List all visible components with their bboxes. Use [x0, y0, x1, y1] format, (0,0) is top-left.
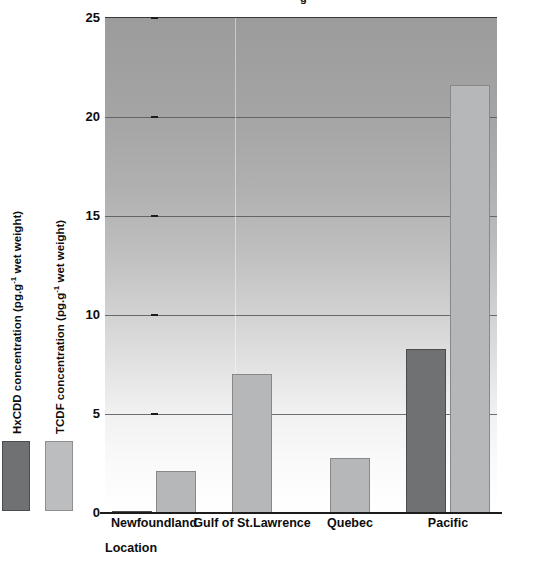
bar-newfoundland-tcdf: [156, 471, 196, 513]
y-tick-mark-25: [151, 17, 158, 19]
y-tick-mark-15: [151, 215, 158, 217]
y-tick-mark-10: [151, 314, 158, 316]
legend-label-hxcdd-suffix: wet weight): [11, 211, 23, 277]
legend-swatch-tcdf: [45, 441, 73, 511]
y-tick-label-20: 20: [60, 110, 100, 123]
y-tick-label-25: 25: [60, 11, 100, 24]
legend-label-tcdf: TCDF concentration (pg.g-1 wet weight): [55, 220, 67, 434]
gridline-15: [105, 216, 497, 217]
bar-pacific-tcdf: [450, 85, 490, 513]
bar-gulf-of-st-lawrence-tcdf: [232, 374, 272, 513]
legend-label-hxcdd: HxCDD concentration (pg.g-1 wet weight): [12, 211, 24, 434]
plot-area: [105, 17, 497, 513]
bar-quebec-tcdf: [330, 458, 370, 513]
legend-label-tcdf-prefix: TCDF concentration (pg.g: [54, 293, 66, 434]
chart-title-remnant: g: [300, 0, 420, 4]
legend-swatch-hxcdd: [2, 441, 30, 511]
gridline-10: [105, 315, 497, 316]
y-tick-mark-0: [151, 512, 158, 514]
legend-label-tcdf-suffix: wet weight): [54, 220, 66, 286]
legend-label-tcdf-exponent: -1: [52, 286, 61, 293]
bar-pacific-hxcdd: [406, 349, 446, 513]
x-axis-title: Location: [105, 541, 157, 555]
y-tick-mark-5: [151, 413, 158, 415]
y-tick-mark-20: [151, 116, 158, 118]
legend-label-hxcdd-prefix: HxCDD concentration (pg.g: [11, 284, 23, 434]
x-axis-line: [100, 512, 502, 514]
gridline-20: [105, 117, 497, 118]
legend-label-hxcdd-exponent: -1: [9, 277, 18, 284]
bar-chart-figure: g 0510152025 NewfoundlandGulf of St.Lawr…: [0, 0, 541, 564]
x-tick-label-pacific: Pacific: [358, 517, 538, 531]
